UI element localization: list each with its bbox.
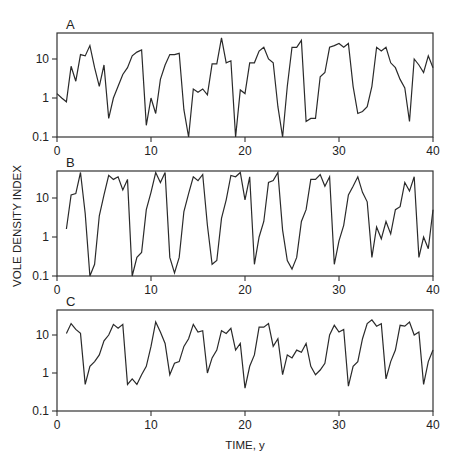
x-tick-label: 40 (426, 418, 440, 432)
y-tick-label: 1 (42, 230, 49, 244)
panel-b: B0.1110010203040 (32, 155, 440, 297)
panel-c: C0.1110010203040 (32, 294, 440, 432)
x-tick-label: 30 (332, 144, 346, 158)
panel-label: A (66, 17, 75, 32)
density-series-line (57, 38, 433, 137)
x-tick-label: 40 (426, 144, 440, 158)
x-tick-label: 40 (426, 283, 440, 297)
y-tick-label: 1 (42, 91, 49, 105)
x-tick-label: 10 (144, 144, 158, 158)
panel-a: A0.1110010203040 (32, 17, 440, 158)
panels: A0.1110010203040B0.1110010203040C0.11100… (32, 17, 440, 432)
x-tick-label: 20 (238, 418, 252, 432)
x-tick-label: 10 (144, 283, 158, 297)
panel-label: C (66, 294, 75, 309)
x-axis-title: TIME, y (225, 439, 265, 451)
x-tick-label: 0 (54, 283, 61, 297)
x-tick-label: 0 (54, 144, 61, 158)
x-tick-label: 30 (332, 418, 346, 432)
y-tick-label: 10 (36, 191, 50, 205)
y-tick-label: 0.1 (32, 269, 49, 283)
panel-label: B (66, 155, 75, 170)
y-tick-label: 0.1 (32, 130, 49, 144)
y-tick-label: 1 (42, 366, 49, 380)
x-tick-label: 30 (332, 283, 346, 297)
x-tick-label: 20 (238, 283, 252, 297)
x-tick-label: 10 (144, 418, 158, 432)
figure: A0.1110010203040B0.1110010203040C0.11100… (0, 0, 458, 470)
plot-frame (57, 171, 433, 276)
y-tick-label: 10 (36, 52, 50, 66)
density-series-line (66, 173, 433, 277)
x-tick-label: 20 (238, 144, 252, 158)
y-tick-label: 10 (36, 328, 50, 342)
y-axis-title: VOLE DENSITY INDEX (11, 165, 23, 287)
y-tick-label: 0.1 (32, 404, 49, 418)
density-series-line (66, 320, 433, 388)
x-tick-label: 0 (54, 418, 61, 432)
